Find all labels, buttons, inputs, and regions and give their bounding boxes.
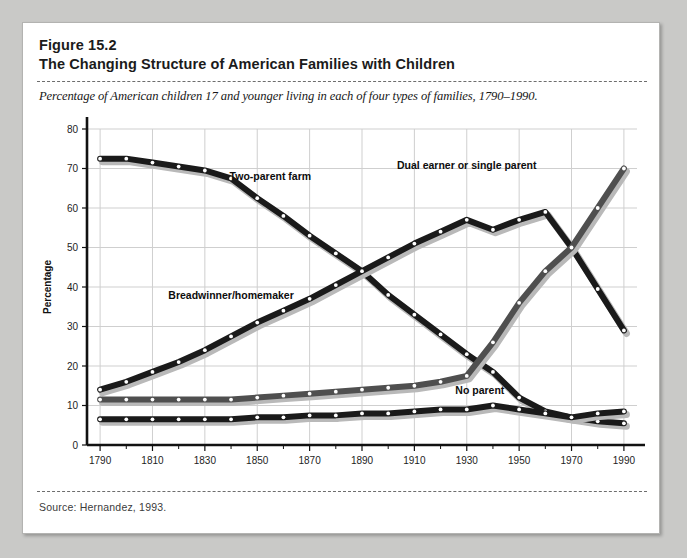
svg-text:1870: 1870 [298,455,321,466]
svg-text:10: 10 [67,400,79,411]
svg-text:1950: 1950 [508,455,531,466]
svg-text:Dual earner or single parent: Dual earner or single parent [397,159,537,171]
svg-text:1970: 1970 [560,455,583,466]
svg-text:1910: 1910 [403,455,426,466]
svg-text:1790: 1790 [89,455,112,466]
svg-text:Breadwinner/homemaker: Breadwinner/homemaker [168,289,293,301]
svg-text:1890: 1890 [351,455,374,466]
line-chart: 01020304050607080 1790181018301850187018… [37,115,649,485]
figure-title: The Changing Structure of American Famil… [39,56,455,72]
y-axis-title: Percentage [42,260,53,314]
svg-text:0: 0 [72,440,78,451]
svg-text:40: 40 [67,282,79,293]
svg-text:20: 20 [67,361,79,372]
svg-text:Percentage: Percentage [42,260,53,314]
svg-text:No parent: No parent [455,384,505,396]
figure-subtitle: Percentage of American children 17 and y… [39,89,538,104]
svg-text:1850: 1850 [246,455,269,466]
x-tick-labels: 1790181018301850187018901910193019501970… [89,455,635,466]
svg-text:80: 80 [67,124,79,135]
svg-text:70: 70 [67,163,79,174]
svg-text:30: 30 [67,321,79,332]
svg-text:60: 60 [67,203,79,214]
divider-bottom [37,491,647,492]
chart-plot-area: 01020304050607080 1790181018301850187018… [37,115,649,485]
source-note: Source: Hernandez, 1993. [39,501,166,513]
svg-text:1810: 1810 [141,455,164,466]
svg-text:1990: 1990 [613,455,636,466]
svg-text:1930: 1930 [456,455,479,466]
figure-number: Figure 15.2 [39,37,117,53]
svg-text:1830: 1830 [194,455,217,466]
svg-text:Two-parent farm: Two-parent farm [230,170,311,182]
figure-panel: Figure 15.2 The Changing Structure of Am… [22,22,660,534]
y-tick-labels: 01020304050607080 [67,124,79,451]
svg-text:50: 50 [67,242,79,253]
divider-top [37,81,647,82]
